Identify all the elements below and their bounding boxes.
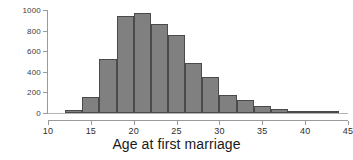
- histogram-bar: [185, 63, 202, 113]
- y-axis-tick-label: 800: [0, 26, 41, 35]
- x-axis-tick-label: 40: [300, 126, 310, 136]
- x-axis-tick: [348, 121, 349, 125]
- histogram-bar: [134, 13, 151, 113]
- histogram-bar: [117, 16, 134, 113]
- histogram-bar: [288, 111, 305, 113]
- y-axis-tick: [43, 10, 47, 11]
- y-axis-tick: [43, 113, 47, 114]
- histogram-bar: [151, 24, 168, 113]
- x-axis-tick: [219, 121, 220, 125]
- histogram-bar: [99, 59, 116, 113]
- histogram-bar: [305, 111, 322, 113]
- histogram-bar: [322, 111, 339, 113]
- y-axis-tick: [43, 31, 47, 32]
- histogram-figure: 02004006008001000 1015202530354045 Age a…: [0, 0, 353, 160]
- x-axis-scale-line: [48, 120, 348, 121]
- histogram-bar: [65, 110, 82, 113]
- x-axis-tick-label: 20: [128, 126, 138, 136]
- y-axis-tick-label: 0: [0, 109, 41, 118]
- x-axis-tick-label: 45: [343, 126, 353, 136]
- x-axis-tick-label: 25: [171, 126, 181, 136]
- histogram-bar: [254, 106, 271, 113]
- y-axis-tick: [43, 92, 47, 93]
- x-axis-title: Age at first marriage: [0, 136, 353, 152]
- x-axis-tick-label: 15: [86, 126, 96, 136]
- x-axis-tick: [177, 121, 178, 125]
- x-axis-tick: [48, 121, 49, 125]
- x-axis-tick: [262, 121, 263, 125]
- histogram-bar: [82, 97, 99, 113]
- x-axis-tick-label: 35: [257, 126, 267, 136]
- histogram-bar: [202, 77, 219, 113]
- x-axis-tick-label: 10: [43, 126, 53, 136]
- y-axis-tick-label: 1000: [0, 6, 41, 15]
- x-axis-tick-label: 30: [214, 126, 224, 136]
- x-axis-baseline: [48, 113, 348, 114]
- histogram-bar: [271, 109, 288, 113]
- plot-area: [48, 10, 348, 113]
- x-axis-tick: [91, 121, 92, 125]
- y-axis-tick: [43, 51, 47, 52]
- y-axis-tick-label: 600: [0, 47, 41, 56]
- y-axis-tick: [43, 72, 47, 73]
- histogram-bar: [219, 95, 236, 113]
- x-axis-tick: [134, 121, 135, 125]
- x-axis-tick: [305, 121, 306, 125]
- y-axis-tick-label: 200: [0, 88, 41, 97]
- histogram-bar: [237, 100, 254, 113]
- histogram-bar: [168, 35, 185, 113]
- y-axis-tick-label: 400: [0, 67, 41, 76]
